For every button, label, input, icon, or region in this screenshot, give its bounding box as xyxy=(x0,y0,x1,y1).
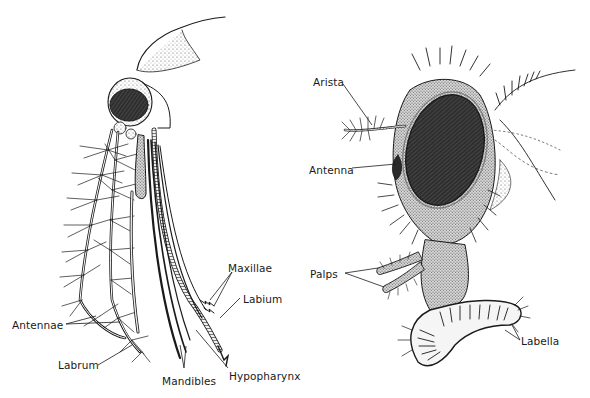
housefly-head-drawing xyxy=(342,46,575,366)
label-antennae: Antennae xyxy=(12,319,63,331)
label-mandibles: Mandibles xyxy=(162,375,216,387)
label-antenna: Antenna xyxy=(309,164,354,176)
illustration-canvas xyxy=(0,0,590,398)
palps-drawing xyxy=(377,252,424,299)
label-palps: Palps xyxy=(310,268,338,280)
label-labium: Labium xyxy=(243,293,282,305)
mosquito-head-drawing xyxy=(60,17,228,366)
label-labella: Labella xyxy=(521,335,559,347)
label-arista: Arista xyxy=(313,76,344,88)
label-hypopharynx: Hypopharynx xyxy=(229,370,300,382)
label-labrum: Labrum xyxy=(58,359,99,371)
label-maxillae: Maxillae xyxy=(228,262,272,274)
labella-drawing xyxy=(398,297,530,366)
